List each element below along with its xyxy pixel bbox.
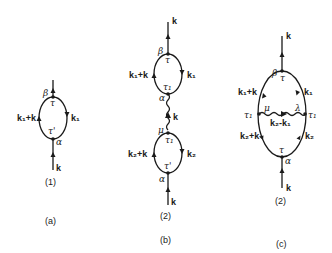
label-tau: τ (50, 98, 56, 108)
diagram-c: k β τ k₁+k k₁ τ₁ τ₁ μ λ k₂-k₁ k₂+k k₂ τ … (238, 31, 317, 249)
label-left-line: k₁+k (17, 113, 37, 123)
arrow-icon (262, 93, 267, 99)
arrow-icon (51, 152, 56, 157)
label-beta: β (42, 88, 48, 98)
label-beta: β (157, 46, 163, 56)
label-beta: β (271, 68, 277, 78)
label-k2-plus-k: k₂+k (240, 131, 260, 141)
caption-a: (a) (45, 216, 56, 226)
diagram-number: (2) (160, 211, 171, 221)
caption-b: (b) (160, 235, 171, 245)
diagram-number: (1) (45, 177, 56, 187)
label-k2: k₂ (187, 149, 196, 159)
label-tau1: τ₁ (165, 135, 174, 145)
arrow-icon (280, 168, 285, 173)
label-incoming-k: k (286, 183, 292, 193)
label-incoming-k: k (171, 197, 177, 207)
arrow-icon (259, 136, 264, 141)
arrow-icon (166, 34, 171, 39)
label-tau: τ (279, 145, 285, 155)
label-tau: τ (280, 73, 286, 83)
label-wavy-k: k (173, 112, 179, 122)
arrow-icon (180, 149, 185, 154)
feynman-diagrams: β τ k₁+k k₁ τ' α k (1) (a) k β τ k₁+k k₁… (0, 0, 332, 253)
label-mu: μ (264, 103, 270, 113)
arrow-icon (280, 52, 285, 57)
label-k2: k₂ (305, 131, 314, 141)
label-mu: μ (158, 125, 164, 135)
diagram-a: β τ k₁+k k₁ τ' α k (1) (a) (17, 80, 80, 226)
label-k1-plus-k: k₁+k (129, 70, 149, 80)
arrow-icon (166, 187, 171, 192)
label-k1: k₁ (187, 70, 196, 80)
diagram-b: k β τ k₁+k k₁ τ₁ α k μ τ₁ k₂+k k₂ τ' α k… (128, 16, 196, 245)
label-tau1: τ₁ (163, 82, 172, 92)
arrow-icon (152, 152, 157, 157)
arrow-icon (152, 73, 157, 78)
label-top-k: k (172, 16, 178, 26)
arrow-icon (297, 136, 301, 141)
label-k2-minus-k1: k₂-k₁ (270, 118, 291, 128)
arrow-icon (51, 88, 56, 93)
label-k1: k₁ (304, 87, 313, 97)
label-alpha: α (159, 174, 165, 184)
label-k1-plus-k: k₁+k (238, 87, 258, 97)
label-tau-prime: τ' (48, 126, 55, 136)
label-right-line: k₁ (71, 113, 80, 123)
label-top-k: k (286, 31, 292, 41)
diagram-number: (2) (275, 196, 286, 206)
label-left-tau1: τ₁ (244, 110, 253, 120)
label-tau: τ (165, 55, 171, 65)
label-right-tau1: τ₁ (308, 110, 317, 120)
label-k2-plus-k: k₂+k (128, 149, 148, 159)
caption-c: (c) (276, 239, 287, 249)
label-tau-prime: τ' (164, 161, 171, 171)
label-lambda: λ (294, 103, 301, 113)
arrow-icon (37, 116, 42, 121)
arrow-icon (296, 90, 301, 96)
label-alpha: α (56, 137, 62, 147)
label-alpha: α (159, 93, 165, 103)
arrow-icon (180, 70, 185, 75)
arrow-icon (65, 112, 70, 117)
label-incoming-k: k (56, 163, 62, 173)
label-alpha: α (285, 156, 291, 166)
